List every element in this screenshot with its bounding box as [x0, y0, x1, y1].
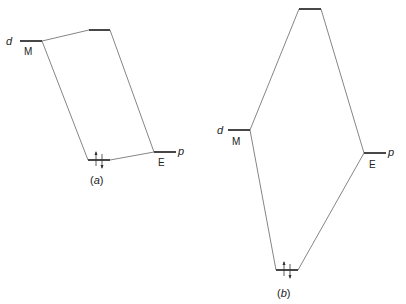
- atom-label-m-a: M: [24, 46, 32, 57]
- orbital-label-p-b: p: [387, 146, 394, 158]
- panel-a: d M p E (a): [6, 30, 184, 186]
- orbital-label-d-a: d: [6, 35, 13, 47]
- connector-m-to-bonding-a: [42, 41, 88, 160]
- connector-m-to-bonding-b: [250, 130, 276, 270]
- caption-b: (b): [277, 287, 290, 299]
- connector-antibonding-to-e-a: [110, 30, 154, 152]
- spin-up-arrowhead-icon: [95, 151, 98, 155]
- atom-label-e-b: E: [369, 159, 376, 170]
- mo-diagram: d M p E (a) d M p E (b): [0, 0, 406, 304]
- caption-paren-close: ): [100, 174, 104, 186]
- orbital-label-p-a: p: [177, 145, 184, 157]
- connector-antibonding-to-e-b: [321, 9, 364, 153]
- atom-label-e-a: E: [158, 157, 165, 168]
- connector-m-to-antibonding-a: [42, 30, 89, 41]
- spin-up-arrowhead-icon: [283, 261, 286, 265]
- connector-m-to-antibonding-b: [250, 9, 299, 130]
- connector-bonding-to-e-a: [110, 152, 154, 160]
- spin-down-arrowhead-icon: [101, 165, 104, 169]
- panel-b: d M p E (b): [217, 9, 394, 299]
- atom-label-m-b: M: [232, 136, 240, 147]
- orbital-label-d-b: d: [217, 124, 224, 136]
- caption-a: (a): [90, 174, 103, 186]
- spin-down-arrowhead-icon: [289, 275, 292, 279]
- caption-paren-close: ): [287, 287, 291, 299]
- connector-bonding-to-e-b: [298, 153, 364, 270]
